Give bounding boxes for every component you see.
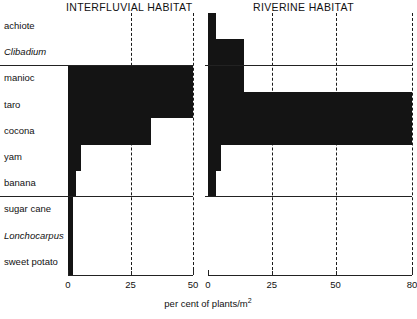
- x-axis-title-text: per cent of plants/m: [164, 298, 247, 309]
- tick-label-80: 80: [407, 279, 417, 290]
- axis-line: [208, 275, 412, 276]
- separator-lower-left: [0, 196, 193, 197]
- bar-cocona: [208, 118, 412, 145]
- tick-label-0: 0: [65, 279, 70, 290]
- plot-area-riverine: [208, 13, 412, 275]
- row-label-taro: taro: [4, 99, 20, 110]
- tick-label-0: 0: [205, 279, 210, 290]
- bar-yam: [208, 144, 221, 171]
- tick-25: [131, 271, 132, 275]
- bar-yam: [68, 144, 81, 171]
- axis-cap-end: [193, 270, 194, 275]
- bar-taro: [68, 92, 193, 119]
- bar-banana: [68, 170, 76, 197]
- row-label-lonchocarpus: Lonchocarpus: [4, 230, 64, 241]
- gridline-50: [193, 13, 194, 275]
- plot-area-interfluvial: [68, 13, 193, 275]
- bar-taro: [208, 92, 412, 119]
- axis-line: [68, 275, 193, 276]
- bar-cocona: [68, 118, 151, 145]
- separator-upper-left: [0, 65, 193, 66]
- bar-manioc: [68, 65, 193, 92]
- tick-label-50: 50: [188, 279, 199, 290]
- row-label-sugar-cane: sugar cane: [4, 203, 51, 214]
- bar-lonchocarpus: [68, 223, 73, 250]
- row-label-sweet-potato: sweet potato: [4, 256, 58, 267]
- gridline-80: [412, 13, 413, 275]
- tick-25: [272, 271, 273, 275]
- row-label-clibadium: Clibadium: [4, 46, 46, 57]
- bar-manioc: [208, 65, 244, 92]
- axis-cap-end: [412, 270, 413, 275]
- tick-label-25: 25: [266, 279, 277, 290]
- separator-lower-right: [205, 196, 412, 197]
- tick-label-25: 25: [125, 279, 136, 290]
- row-label-achiote: achiote: [4, 20, 35, 31]
- panel-title-riverine: RIVERINE HABITAT: [253, 1, 354, 13]
- bar-banana: [208, 170, 216, 197]
- bar-sugar-cane: [68, 196, 73, 223]
- tick-label-50: 50: [330, 279, 341, 290]
- row-label-banana: banana: [4, 177, 36, 188]
- axis-cap-start: [208, 270, 209, 275]
- axis-cap-start: [68, 270, 69, 275]
- tick-50: [336, 271, 337, 275]
- x-axis-title: per cent of plants/m2: [0, 297, 416, 309]
- x-axis-title-superscript: 2: [248, 297, 252, 304]
- bar-achiote: [208, 13, 216, 40]
- panel-title-interfluvial: INTERFLUVIAL HABITAT: [66, 1, 192, 13]
- row-label-yam: yam: [4, 151, 22, 162]
- row-label-manioc: manioc: [4, 72, 35, 83]
- separator-upper-right: [205, 65, 412, 66]
- row-label-cocona: cocona: [4, 125, 35, 136]
- bar-clibadium: [208, 39, 244, 66]
